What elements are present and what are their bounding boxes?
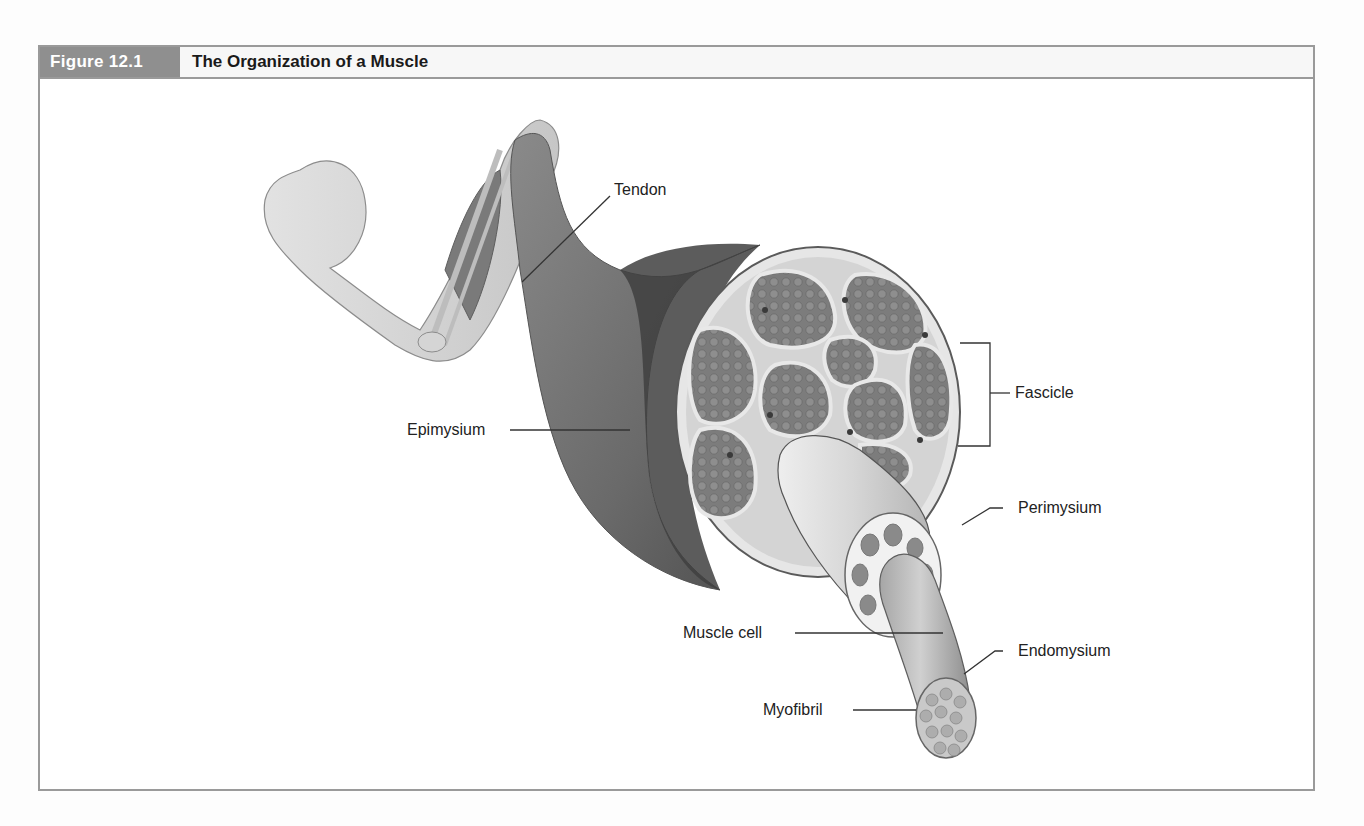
callout-endomysium: Endomysium	[1018, 643, 1110, 659]
callout-fascicle: Fascicle	[1015, 385, 1074, 401]
callout-perimysium: Perimysium	[1018, 500, 1102, 516]
muscle-cell-illustration	[880, 554, 976, 758]
callout-muscle-cell: Muscle cell	[683, 625, 762, 641]
muscle-organization-illustration	[0, 0, 1364, 826]
callout-tendon: Tendon	[614, 182, 667, 198]
callout-myofibril: Myofibril	[763, 702, 823, 718]
callout-epimysium: Epimysium	[407, 422, 485, 438]
